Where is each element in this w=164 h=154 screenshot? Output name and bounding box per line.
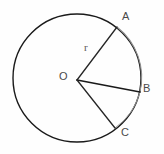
radius-label-r: r [84,42,88,53]
geometry-diagram: A B C O r [0,0,164,154]
arc-b-to-c [115,92,140,128]
point-label-c: C [121,127,129,138]
radius-segment-ob [77,80,140,92]
point-label-b: B [143,83,150,94]
point-label-o: O [59,71,68,82]
radius-segment-oc [77,80,115,128]
circle-sector-svg [0,0,164,154]
point-label-a: A [122,11,129,22]
radius-segment-oa [77,27,117,80]
